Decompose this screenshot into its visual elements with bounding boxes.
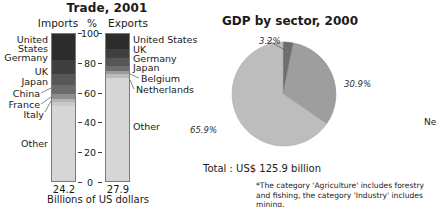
axis-tick-60: 60 bbox=[78, 88, 102, 99]
exports-segment-germany bbox=[106, 58, 129, 66]
leader-france bbox=[41, 97, 51, 104]
imports-segment-japan bbox=[52, 85, 75, 94]
pie-label-services: 65.9% bbox=[190, 125, 217, 135]
exports-stacked-bar bbox=[105, 33, 130, 182]
imports-label-china: China bbox=[0, 89, 40, 99]
imports-label-japan: Japan bbox=[0, 77, 48, 87]
exports-segment-uk bbox=[106, 49, 129, 58]
axis-tick-80: 80 bbox=[78, 58, 102, 69]
imports-segment-uk bbox=[52, 74, 75, 85]
percent-axis: 100 80 60 40 20 0 bbox=[78, 33, 102, 182]
imports-stacked-bar bbox=[51, 33, 76, 182]
exports-column-header: Exports bbox=[98, 17, 158, 29]
imports-label-germany: Germany bbox=[0, 53, 48, 63]
exports-label-netherlands: Netherlands bbox=[136, 85, 194, 95]
exports-segment-united-states bbox=[106, 34, 129, 49]
axis-tick-20: 20 bbox=[78, 147, 102, 158]
gdp-chart-title: GDP by sector, 2000 bbox=[210, 14, 370, 28]
gdp-total-value: Total : US$ 125.9 billion bbox=[203, 163, 321, 174]
imports-label-other: Other bbox=[0, 139, 48, 149]
trade-chart-title: Trade, 2001 bbox=[42, 1, 172, 15]
imports-label-italy: Italy bbox=[0, 110, 44, 120]
leader-china bbox=[41, 88, 51, 93]
exports-segment-other bbox=[106, 78, 129, 181]
clipped-edge-text: Ne bbox=[424, 117, 436, 127]
leader-belgium bbox=[130, 74, 139, 78]
exports-label-belgium: Belgium bbox=[141, 74, 180, 84]
exports-label-other: Other bbox=[133, 122, 160, 132]
exports-label-japan: Japan bbox=[133, 63, 160, 73]
pie-leader-line bbox=[227, 30, 339, 150]
imports-segment-germany bbox=[52, 60, 75, 75]
gdp-footnote: *The category 'Agriculture' includes for… bbox=[256, 181, 440, 207]
trade-axis-caption: Billions of US dollars bbox=[18, 194, 178, 205]
axis-tick-40: 40 bbox=[78, 117, 102, 128]
imports-segment-other bbox=[52, 106, 75, 181]
leader-netherlands bbox=[130, 80, 134, 89]
axis-tick-100: 100 bbox=[78, 28, 102, 39]
imports-segment-united-states bbox=[52, 34, 75, 60]
pie-label-industry: 30.9% bbox=[344, 79, 371, 89]
